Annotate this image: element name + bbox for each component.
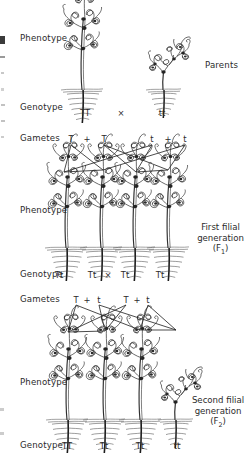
side-label-f1-line1: First filial xyxy=(193,222,248,233)
f1-gamete-T-2: T xyxy=(121,295,131,305)
row-label-phenotype-f1: Phenotype xyxy=(20,206,67,216)
row-label-genotype-parents: Genotype xyxy=(20,103,63,113)
side-label-second-filial-generation: Second filial generation (F2) xyxy=(188,395,248,430)
f2-genotype-4-tt: tt xyxy=(170,441,184,451)
parent-gamete-t-1: t xyxy=(147,134,157,144)
side-label-f1-symbol: (F1) xyxy=(193,243,248,257)
parent-gamete-plus-1: + xyxy=(82,134,92,144)
f1-genotype-3-Tt: Tt xyxy=(118,270,132,280)
f2-genotype-3-Tt: Tt xyxy=(133,441,147,451)
f1-gamete-T-1: T xyxy=(71,295,81,305)
side-label-f1-line2: generation xyxy=(193,233,248,244)
f1-genotype-4-Tt: Tt xyxy=(153,270,167,280)
f1-to-f2-cross-lines xyxy=(68,305,176,332)
f1-cross-symbol: × xyxy=(102,270,114,280)
side-label-f2-symbol: (F2) xyxy=(188,416,248,430)
side-label-f2-line2: generation xyxy=(188,406,248,417)
row-label-phenotype-f2: Phenotype xyxy=(20,378,67,388)
side-label-parents: Parents xyxy=(205,61,238,71)
row-label-gametes-f1: Gametes xyxy=(20,295,60,305)
f1-gamete-t-2: t xyxy=(143,295,153,305)
mendelian-cross-diagram: Phenotype Parents Genotype TT × tt Gamet… xyxy=(0,0,248,460)
parent-gamete-t-2: t xyxy=(180,134,190,144)
parent-genotype-TT: TT xyxy=(77,108,93,118)
row-label-phenotype-parents: Phenotype xyxy=(20,34,67,44)
parent-gamete-T-1: T xyxy=(66,134,76,144)
f1-gamete-plus-1: + xyxy=(82,295,92,305)
f2-genotype-2-Tt: Tt xyxy=(97,441,111,451)
parent-genotype-tt: tt xyxy=(155,108,169,118)
f1-gamete-plus-2: + xyxy=(132,295,142,305)
parent-gamete-T-2: T xyxy=(99,134,109,144)
row-label-genotype-f2: Genotype xyxy=(20,441,63,451)
f1-genotype-1-Tt: Tt xyxy=(52,270,66,280)
side-label-f2-line1: Second filial xyxy=(188,395,248,406)
f1-genotype-2-Tt: Tt xyxy=(85,270,99,280)
parent-to-f1-cross-lines xyxy=(64,145,185,172)
side-label-first-filial-generation: First filial generation (F1) xyxy=(193,222,248,257)
f1-gamete-t-1: t xyxy=(94,295,104,305)
row-label-gametes-parents: Gametes xyxy=(20,134,60,144)
f2-genotype-1-TT: TT xyxy=(59,441,75,451)
parent-cross-symbol: × xyxy=(115,108,127,118)
parent-gamete-plus-2: + xyxy=(163,134,173,144)
